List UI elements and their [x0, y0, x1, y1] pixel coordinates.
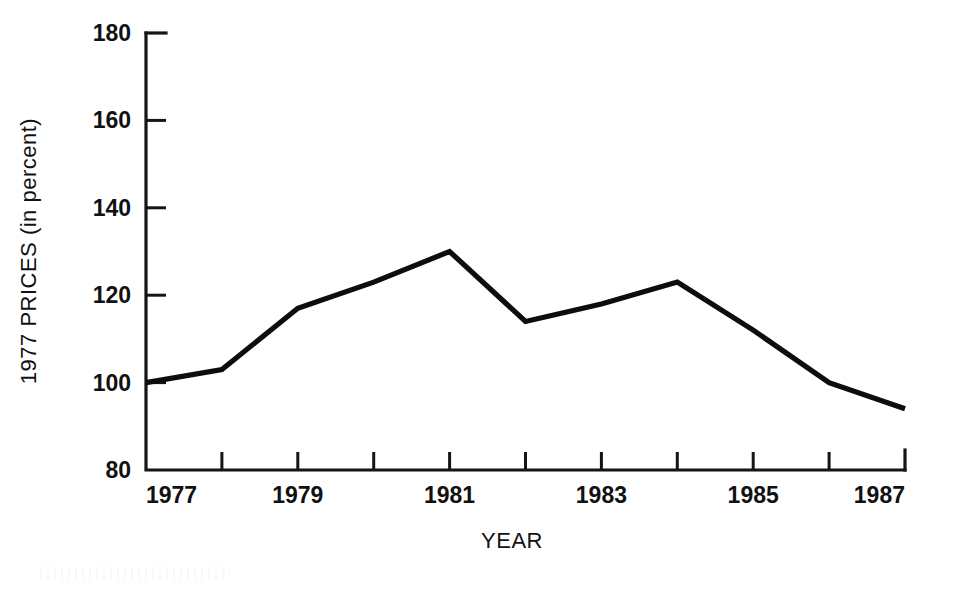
x-tick-label-1979: 1979: [272, 482, 323, 508]
y-tick-label-140: 140: [93, 195, 131, 221]
chart-container: 180 160 140 120 100 80 1977 1979 1981 19…: [0, 0, 956, 590]
y-tick-label-80: 80: [105, 457, 131, 483]
y-tick-marks: [146, 120, 166, 382]
y-tick-label-160: 160: [93, 107, 131, 133]
y-axis-title: 1977 PRICES (in percent): [16, 118, 41, 384]
x-axis-title: YEAR: [481, 528, 543, 553]
y-tick-label-180: 180: [93, 20, 131, 46]
data-series-line: [146, 252, 905, 409]
x-tick-label-1985: 1985: [728, 482, 779, 508]
x-tick-label-1983: 1983: [576, 482, 627, 508]
x-tick-marks: [222, 452, 829, 470]
x-tick-label-1987: 1987: [854, 482, 905, 508]
x-tick-label-1977: 1977: [146, 482, 197, 508]
axis-lines: [146, 33, 905, 470]
y-tick-label-120: 120: [93, 282, 131, 308]
y-tick-label-100: 100: [93, 370, 131, 396]
x-tick-label-1981: 1981: [424, 482, 475, 508]
line-chart: 180 160 140 120 100 80 1977 1979 1981 19…: [0, 0, 956, 590]
